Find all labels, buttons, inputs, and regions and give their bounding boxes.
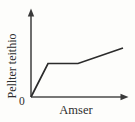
right-arrow-icon [121,94,129,100]
x-axis-label: Amser [48,104,104,117]
origin-label: 0 [19,96,25,108]
y-axis-label: Pellter teithio [6,30,18,102]
up-arrow-icon [28,9,34,17]
distance-time-graph-figure: Pellter teithio Amser 0 [0,0,135,122]
data-series-line [31,48,123,97]
